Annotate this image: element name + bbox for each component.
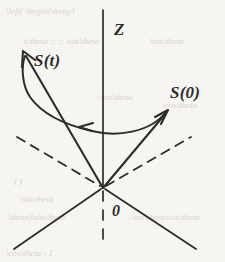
spin-t-label: S(t) xyxy=(34,52,60,69)
spin-0-label: S(0) xyxy=(170,84,200,101)
axis-left-solid xyxy=(14,189,101,249)
spin-vector-s0 xyxy=(103,113,166,188)
precession-arc-arrowhead xyxy=(79,123,93,131)
diagram-canvas xyxy=(0,0,225,262)
spin-precession-figure: \left( \begin{array} s\theta \; \; \sin\… xyxy=(0,0,225,262)
axis-right-solid xyxy=(105,189,196,249)
axis-right-dashed xyxy=(106,137,191,186)
z-axis-label: Z xyxy=(114,21,125,38)
origin-label: 0 xyxy=(112,203,120,219)
